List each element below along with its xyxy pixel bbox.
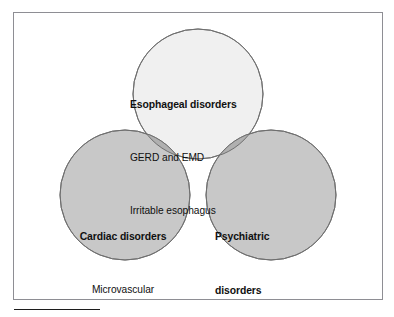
venn-svg xyxy=(0,0,394,317)
caption-rule xyxy=(14,309,100,310)
venn-diagram-figure: Esophageal disorders GERD and EMD Irrita… xyxy=(0,0,394,317)
